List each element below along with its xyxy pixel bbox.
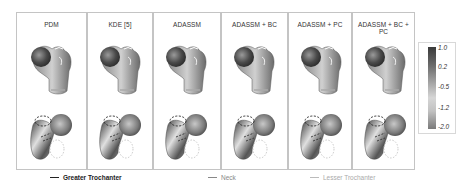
legend-item-greater-trochanter: Greater Trochanter [50,174,122,181]
femur-posterior-render [88,103,152,169]
panel-title: ADASSM + BC + PC [353,21,414,35]
panel-title: ADASSM + PC [289,21,351,28]
femur-anterior-render [222,35,287,101]
femur-anterior-render [353,35,414,101]
legend-label: Neck [221,174,236,181]
panel-title: PDM [17,21,86,28]
femur-anterior-render [88,35,152,101]
colorbar-tick: -2.0 [438,123,449,130]
panel-title: KDE [5] [88,21,152,28]
method-panel: ADASSM + PC [288,12,352,170]
legend-line-icon [208,177,217,178]
colorbar-gradient [428,47,436,129]
legend-label: Lesser Trochanter [323,174,375,181]
legend-item-neck: Neck [208,174,236,181]
femur-posterior-render [154,103,220,169]
colorbar: 1.0 0.2 -0.5 -1.2 -2.0 [418,42,456,134]
legend-label: Greater Trochanter [63,174,122,181]
colorbar-tick: 0.2 [438,63,447,70]
femur-posterior-render [289,103,351,169]
method-panel: ADASSM + BC [221,12,288,170]
panel-title: ADASSM + BC [222,21,287,28]
femur-posterior-render [17,103,86,169]
method-panel: PDM [16,12,87,170]
legend-item-lesser-trochanter: Lesser Trochanter [310,174,375,181]
femur-anterior-render [17,35,86,101]
femur-posterior-render [353,103,414,169]
legend-line-icon [310,177,319,178]
femur-posterior-render [222,103,287,169]
method-panel: KDE [5] [87,12,153,170]
colorbar-tick: -1.2 [438,104,449,111]
method-panel: ADASSM + BC + PC [352,12,415,170]
legend-line-icon [50,177,59,178]
femur-anterior-render [289,35,351,101]
colorbar-tick: 1.0 [438,44,447,51]
colorbar-tick: -0.5 [438,83,449,90]
femur-anterior-render [154,35,220,101]
method-panel: ADASSM [153,12,221,170]
panel-title: ADASSM [154,21,220,28]
